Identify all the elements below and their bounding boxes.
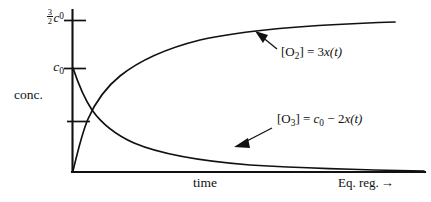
o3-equals: =	[303, 111, 310, 126]
y-axis-label: conc.	[14, 88, 43, 102]
curve-annotation-o3: [O3] = c0 − 2x(t)	[277, 112, 362, 128]
c-subscript: 0	[59, 12, 64, 21]
o3-c-subscript: 0	[319, 118, 324, 128]
concentration-vs-time-figure: 3 2 c0 c0 conc. time Eq. reg.→ [O2] = 3x…	[0, 0, 431, 202]
o2-argument: (t)	[330, 44, 342, 59]
o3-argument: (t)	[350, 111, 362, 126]
o2-equals: =	[307, 44, 314, 59]
curve-o3-falling	[73, 68, 424, 171]
right-arrow-icon: →	[379, 175, 394, 190]
o2-bracket-open: [O	[281, 44, 295, 59]
arrowhead-o3	[234, 138, 250, 148]
x-axis-right-label: Eq. reg.→	[338, 176, 394, 189]
x-axis-label: time	[193, 176, 217, 190]
arrowhead-o2	[255, 31, 268, 43]
o3-bracket-open: [O	[277, 111, 291, 126]
fraction-three-halves: 3 2	[47, 8, 53, 26]
o3-minus: −	[327, 111, 334, 126]
fraction-numerator: 3	[47, 8, 53, 17]
curve-o2-rising	[73, 22, 395, 171]
fraction-denominator: 2	[47, 16, 53, 26]
y-tick-label-three-halves-c0: 3 2 c0	[47, 8, 64, 26]
o2-bracket-close: ]	[299, 44, 303, 59]
plot-canvas	[0, 0, 431, 202]
o3-bracket-close: ]	[295, 111, 299, 126]
curve-annotation-o2: [O2] = 3x(t)	[281, 45, 342, 61]
eq-reg-text: Eq. reg.	[338, 175, 379, 190]
y-tick-label-c0: c0	[53, 60, 64, 75]
c-subscript: 0	[59, 65, 64, 76]
